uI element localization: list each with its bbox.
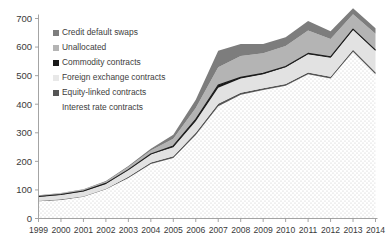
legend-item-5: Interest rate contracts	[53, 100, 213, 115]
legend-swatch-icon	[53, 30, 59, 36]
y-tick-label: 100	[16, 184, 32, 195]
x-tick-label: 2003	[119, 225, 138, 235]
legend-item-4: Equity-linked contracts	[53, 85, 213, 100]
legend-label: Credit default swaps	[62, 28, 138, 36]
legend-label: Foreign exchange contracts	[62, 73, 165, 81]
x-tick-label: 2013	[343, 225, 362, 235]
y-tick-label: 300	[16, 127, 32, 138]
legend-swatch-icon	[53, 75, 59, 81]
x-tick-label: 2005	[164, 225, 183, 235]
x-tick-label: 2007	[209, 225, 228, 235]
x-tick-label: 2012	[321, 225, 340, 235]
y-tick-label: 200	[16, 156, 32, 167]
legend-swatch-icon	[53, 60, 59, 66]
legend-label: Equity-linked contracts	[62, 88, 146, 96]
x-tick-label: 2001	[74, 225, 93, 235]
x-tick-label: 2010	[276, 225, 295, 235]
legend-item-2: Commodity contracts	[53, 55, 213, 70]
legend-label: Interest rate contracts	[62, 103, 143, 111]
y-axis-tick-labels: 0100200300400500600700	[16, 13, 38, 224]
chart-legend: Credit default swapsUnallocatedCommodity…	[53, 25, 213, 115]
x-tick-label: 1999	[29, 225, 48, 235]
x-tick-label: 2009	[254, 225, 273, 235]
legend-item-1: Unallocated	[53, 40, 213, 55]
x-axis-tick-labels: 1999200020012002200320042005200620072008…	[29, 219, 385, 235]
legend-label: Unallocated	[62, 43, 106, 51]
x-tick-label: 2002	[96, 225, 115, 235]
x-tick-label: 2014	[366, 225, 385, 235]
x-tick-label: 2000	[51, 225, 70, 235]
y-tick-label: 700	[16, 13, 32, 24]
y-tick-label: 600	[16, 41, 32, 52]
legend-swatch-icon	[53, 90, 59, 96]
x-tick-label: 2011	[299, 225, 318, 235]
legend-item-3: Foreign exchange contracts	[53, 70, 213, 85]
x-tick-label: 2004	[141, 225, 160, 235]
legend-item-0: Credit default swaps	[53, 25, 213, 40]
y-tick-label: 500	[16, 70, 32, 81]
y-tick-label: 400	[16, 99, 32, 110]
legend-swatch-icon	[53, 105, 59, 111]
legend-swatch-icon	[53, 45, 59, 51]
stacked-area-chart: 0100200300400500600700 19992000200120022…	[0, 0, 389, 249]
x-tick-label: 2006	[186, 225, 205, 235]
legend-label: Commodity contracts	[62, 58, 141, 66]
x-tick-label: 2008	[231, 225, 250, 235]
y-tick-label: 0	[27, 213, 32, 224]
